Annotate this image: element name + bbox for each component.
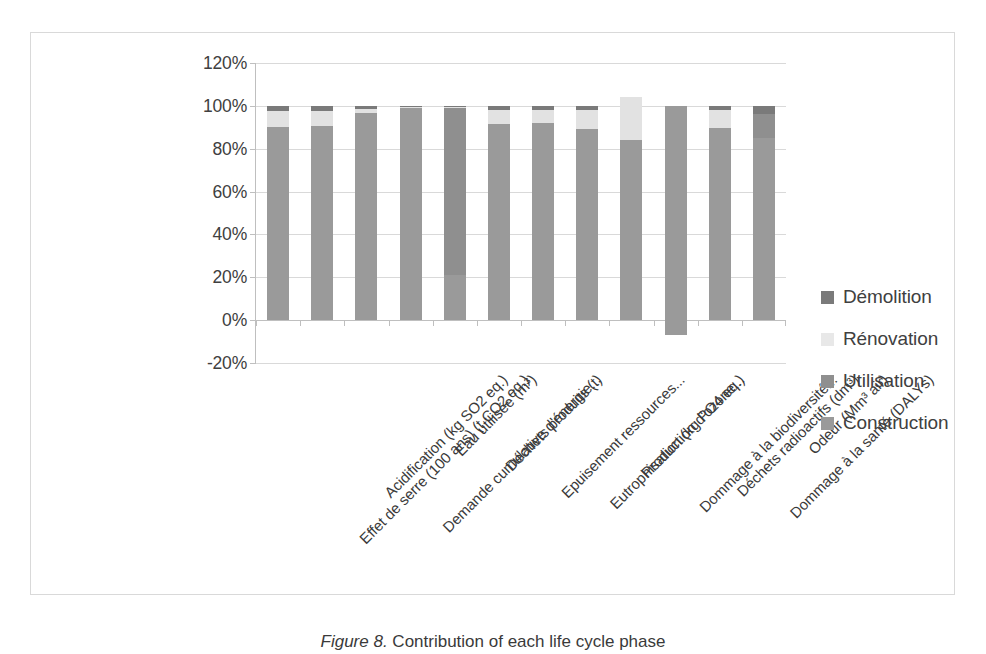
bar-segment[interactable] (620, 97, 642, 140)
x-axis-tick-mark (477, 320, 478, 326)
bar-segment[interactable] (709, 110, 731, 128)
y-axis-tick-label: 60% (213, 181, 247, 202)
legend-swatch-icon (821, 333, 834, 346)
bar-segment[interactable] (400, 107, 422, 108)
plot-area: -20%0%20%40%60%80%100%120% (256, 63, 786, 363)
bar-segment[interactable] (532, 110, 554, 123)
legend-label: Utilisation (843, 370, 924, 392)
bar-segment[interactable] (355, 109, 377, 113)
bar-segment[interactable] (532, 123, 554, 320)
bar-slot (256, 63, 300, 363)
x-axis-tick-mark (344, 320, 345, 326)
bar-segment[interactable] (444, 107, 466, 108)
bar-slot (433, 63, 477, 363)
bar-stack[interactable] (665, 63, 687, 363)
x-axis-tick-mark (300, 320, 301, 326)
bar-segment[interactable] (488, 124, 510, 320)
bar-segment[interactable] (355, 106, 377, 109)
bar-stack[interactable] (620, 63, 642, 363)
bar-slot (477, 63, 521, 363)
figure-number: Figure 8. (321, 632, 388, 651)
bar-stack[interactable] (753, 63, 775, 363)
y-axis-tick-label: 100% (203, 95, 247, 116)
x-axis-tick-mark (256, 320, 257, 326)
bar-stack[interactable] (532, 63, 554, 363)
legend-item[interactable]: Utilisation (821, 360, 948, 402)
bar-slot (389, 63, 433, 363)
bar-segment[interactable] (311, 126, 333, 320)
x-axis-tick-mark (654, 320, 655, 326)
x-axis-tick-mark (785, 320, 786, 326)
bar-segment[interactable] (267, 111, 289, 127)
bar-stack[interactable] (709, 63, 731, 363)
bar-slot (344, 63, 388, 363)
bar-segment[interactable] (488, 110, 510, 124)
x-axis-tick-mark (698, 320, 699, 326)
bar-segment[interactable] (753, 114, 775, 138)
x-axis-category-label: Production d'ozone... (637, 371, 747, 481)
bar-stack[interactable] (311, 63, 333, 363)
bar-segment[interactable] (753, 138, 775, 320)
legend-item[interactable]: Construction (821, 402, 948, 444)
bar-slot (521, 63, 565, 363)
bar-segment[interactable] (576, 110, 598, 129)
bar-segment[interactable] (709, 128, 731, 320)
bar-slot (609, 63, 653, 363)
x-axis-tick-mark (565, 320, 566, 326)
y-axis-tick-label: 0% (222, 310, 247, 331)
y-axis-tick-label: 40% (213, 224, 247, 245)
x-axis-tick-mark (609, 320, 610, 326)
bar-segment[interactable] (444, 106, 466, 107)
bar-segment[interactable] (576, 106, 598, 110)
bar-series-group (256, 63, 786, 363)
bar-segment[interactable] (488, 106, 510, 110)
legend-label: Rénovation (843, 328, 938, 350)
legend-item[interactable]: Démolition (821, 276, 948, 318)
chart-legend: DémolitionRénovationUtilisationConstruct… (821, 276, 948, 444)
x-axis-category-label-wrap: Production d'ozone... (637, 371, 747, 481)
bar-segment[interactable] (753, 106, 775, 115)
bar-stack[interactable] (488, 63, 510, 363)
gridline (256, 363, 786, 364)
bar-segment[interactable] (444, 275, 466, 320)
bar-stack[interactable] (267, 63, 289, 363)
y-axis-tick-label: -20% (207, 353, 247, 374)
bar-segment[interactable] (665, 106, 687, 320)
bar-segment[interactable] (311, 111, 333, 126)
legend-swatch-icon (821, 291, 834, 304)
legend-swatch-icon (821, 417, 834, 430)
bar-slot (300, 63, 344, 363)
bar-slot (654, 63, 698, 363)
x-axis-tick-mark (433, 320, 434, 326)
bar-segment[interactable] (444, 108, 466, 275)
bar-segment[interactable] (311, 106, 333, 111)
figure-caption: Figure 8. Contribution of each life cycl… (0, 632, 986, 652)
bar-segment[interactable] (267, 127, 289, 320)
x-axis-tick-mark (389, 320, 390, 326)
bar-segment[interactable] (400, 106, 422, 107)
legend-label: Démolition (843, 286, 932, 308)
legend-label: Construction (843, 412, 948, 434)
y-axis-tick-label: 80% (213, 138, 247, 159)
y-axis-tick-label: 120% (203, 53, 247, 74)
bar-slot (565, 63, 609, 363)
bar-stack[interactable] (355, 63, 377, 363)
bar-segment[interactable] (532, 106, 554, 110)
legend-item[interactable]: Rénovation (821, 318, 948, 360)
x-axis-tick-mark (521, 320, 522, 326)
bar-segment[interactable] (355, 113, 377, 320)
figure-caption-text: Contribution of each life cycle phase (392, 632, 665, 651)
bar-stack[interactable] (444, 63, 466, 363)
bar-slot (742, 63, 786, 363)
bar-segment[interactable] (576, 129, 598, 320)
bar-segment[interactable] (709, 106, 731, 110)
bar-stack[interactable] (576, 63, 598, 363)
x-axis-tick-mark (742, 320, 743, 326)
chart-frame: -20%0%20%40%60%80%100%120% Effet de serr… (30, 32, 955, 595)
bar-slot (698, 63, 742, 363)
bar-segment[interactable] (400, 108, 422, 320)
bar-segment[interactable] (267, 106, 289, 111)
bar-segment-negative[interactable] (665, 320, 687, 335)
bar-stack[interactable] (400, 63, 422, 363)
bar-segment[interactable] (620, 140, 642, 320)
